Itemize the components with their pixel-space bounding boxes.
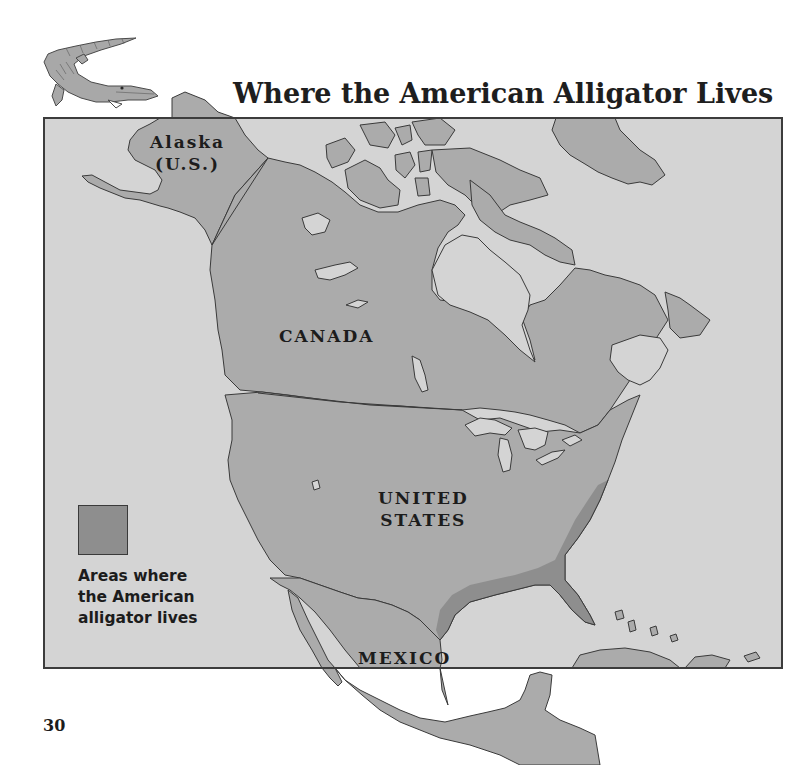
legend-line: the American	[78, 587, 238, 608]
great-salt-lake	[312, 480, 320, 490]
bahamas-island	[650, 626, 658, 636]
alaska-overflow	[172, 92, 235, 118]
arctic-island	[418, 150, 432, 172]
central-america-overflow	[335, 668, 600, 765]
legend-swatch	[78, 505, 128, 555]
us-label-line1: UNITED	[378, 487, 469, 509]
baja-tip-overflow	[322, 668, 342, 686]
alaska-label-line2: (U.S.)	[150, 153, 225, 175]
bahamas-island	[628, 620, 636, 632]
legend-line: Areas where	[78, 566, 238, 587]
page-number: 30	[43, 716, 65, 735]
arctic-island	[415, 178, 430, 196]
legend-line: alligator lives	[78, 608, 238, 629]
bahamas-island	[670, 634, 678, 642]
alaska-label-line1: Alaska	[150, 131, 225, 153]
alaska-label: Alaska (U.S.)	[150, 131, 225, 175]
alligator-illustration-icon	[36, 34, 164, 118]
canada-label: CANADA	[279, 326, 374, 346]
mexico-label: MEXICO	[358, 648, 451, 668]
united-states-label: UNITED STATES	[378, 487, 469, 531]
legend-text: Areas where the American alligator lives	[78, 566, 238, 629]
us-label-line2: STATES	[378, 509, 469, 531]
page-title: Where the American Alligator Lives	[233, 78, 773, 109]
bahamas-island	[615, 610, 624, 620]
